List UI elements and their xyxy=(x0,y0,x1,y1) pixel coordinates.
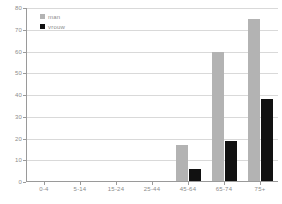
x-axis-tick-mark xyxy=(116,182,117,185)
x-axis-tick-mark xyxy=(80,182,81,185)
x-axis-tick-label: 45-64 xyxy=(180,186,196,192)
x-axis-tick-mark xyxy=(188,182,189,185)
x-axis-tick-mark xyxy=(44,182,45,185)
legend-item-man: man xyxy=(40,12,65,21)
bar-man-65-74 xyxy=(212,52,224,183)
y-axis-tick-label: 20 xyxy=(0,136,22,142)
legend-item-vrouw: vrouw xyxy=(40,22,65,31)
y-axis-tick-label: 70 xyxy=(0,27,22,33)
x-axis-tick-mark xyxy=(260,182,261,185)
bar-group xyxy=(242,8,278,182)
bar-vrouw-75+ xyxy=(261,99,273,182)
legend-label: man xyxy=(48,14,60,20)
legend-label: vrouw xyxy=(48,24,65,30)
x-axis-line xyxy=(26,181,278,182)
bar-man-45-64 xyxy=(176,145,188,182)
bar-vrouw-65-74 xyxy=(225,141,237,182)
y-axis-line xyxy=(26,8,27,182)
x-axis-tick-mark xyxy=(224,182,225,185)
y-axis-tick-label: 10 xyxy=(0,157,22,163)
bar-group xyxy=(170,8,206,182)
x-axis-tick-label: 25-44 xyxy=(144,186,160,192)
bar-chart: 01020304050607080 0-45-1415-2425-4445-64… xyxy=(0,0,282,204)
y-axis-tick-mark xyxy=(23,182,26,183)
plot-area xyxy=(26,8,278,182)
bar-group xyxy=(134,8,170,182)
bar-group xyxy=(206,8,242,182)
y-axis-tick-label: 40 xyxy=(0,92,22,98)
bar-group xyxy=(98,8,134,182)
x-axis-tick-label: 0-4 xyxy=(39,186,48,192)
legend: manvrouw xyxy=(40,12,65,32)
x-axis-tick-label: 5-14 xyxy=(74,186,87,192)
x-axis-tick-label: 75+ xyxy=(255,186,266,192)
y-axis-tick-label: 80 xyxy=(0,5,22,11)
y-axis-tick-label: 50 xyxy=(0,70,22,76)
y-axis-tick-label: 0 xyxy=(0,179,22,185)
y-axis-tick-label: 30 xyxy=(0,114,22,120)
bar-group xyxy=(26,8,62,182)
bar-man-75+ xyxy=(248,19,260,182)
y-axis-tick-label: 60 xyxy=(0,49,22,55)
x-axis-tick-mark xyxy=(152,182,153,185)
bar-group xyxy=(62,8,98,182)
x-axis-tick-label: 15-24 xyxy=(108,186,124,192)
legend-swatch-man xyxy=(40,14,45,19)
legend-swatch-vrouw xyxy=(40,24,45,29)
x-axis-tick-label: 65-74 xyxy=(216,186,232,192)
